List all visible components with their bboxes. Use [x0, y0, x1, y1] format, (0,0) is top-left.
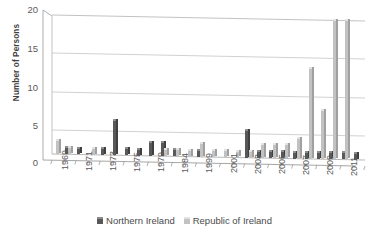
bar-group [64, 4, 76, 166]
bar-series-layer [52, 4, 365, 166]
bar-group [172, 4, 184, 166]
y-axis-ticks: 20 15 10 5 0 [12, 0, 38, 236]
bar-group [160, 4, 172, 166]
legend-item-republic-of-ireland[interactable]: Republic of Ireland [184, 215, 272, 226]
bar-group [281, 4, 293, 166]
bar-group [341, 4, 353, 166]
legend-swatch-icon-northern-ireland [97, 217, 103, 224]
bar-northern-ireland-1974 [113, 120, 116, 155]
plot-area [43, 4, 365, 166]
bar-group [257, 4, 269, 166]
x-tick-label-1971: 1971 [85, 151, 94, 171]
bar-republic-of-ireland-2011 [345, 20, 348, 159]
bar-group [148, 4, 160, 166]
bar-republic-of-ireland-2003 [249, 151, 252, 158]
bar-northern-ireland-1979 [149, 142, 152, 156]
bar-group [52, 4, 64, 166]
bar-group [317, 4, 329, 166]
bar-northern-ireland-1971 [77, 148, 80, 155]
bar-group [184, 4, 196, 166]
x-tick-label-1973: 1973 [109, 151, 118, 171]
x-tick-label-2011: 2011 [350, 156, 359, 175]
x-tick-label-1984: 1984 [181, 152, 190, 172]
x-tick-label-2009: 2009 [326, 155, 335, 175]
x-tick-label-2007: 2007 [302, 155, 311, 175]
bar-group [293, 4, 305, 166]
chart-container: Number of Persons 20 15 10 5 0 [0, 0, 369, 236]
bar-group [221, 4, 233, 166]
bar-group [269, 4, 281, 166]
legend-item-northern-ireland[interactable]: Northern Ireland [97, 215, 175, 226]
bar-group [112, 4, 124, 166]
bar-northern-ireland-1973 [101, 148, 104, 155]
bar-northern-ireland-1975 [125, 148, 128, 155]
x-tick-label-1975: 1975 [133, 152, 142, 172]
bar-republic-of-ireland-2008 [309, 68, 312, 158]
y-tick-label-5: 5 [16, 121, 38, 131]
bar-republic-of-ireland-2001 [224, 150, 227, 157]
legend-swatch-icon-republic-of-ireland [184, 217, 190, 224]
bar-group [209, 4, 221, 166]
bar-republic-of-ireland-1969 [56, 140, 59, 154]
bar-group [233, 4, 245, 166]
y-tick-label-20: 20 [16, 5, 38, 15]
y-tick-label-0: 0 [16, 158, 38, 168]
bar-republic-of-ireland-1999 [200, 143, 203, 157]
y-tick-label-15: 15 [16, 44, 38, 54]
bar-group [245, 4, 257, 166]
bar-republic-of-ireland-2005 [273, 144, 276, 158]
x-tick-label-2005: 2005 [278, 154, 287, 174]
bar-republic-of-ireland-1984 [176, 149, 179, 156]
bar-republic-of-ireland-2007 [297, 138, 300, 159]
bar-republic-of-ireland-2010 [333, 20, 336, 159]
bar-group [88, 4, 100, 166]
bar-republic-of-ireland-2009 [321, 110, 324, 159]
x-tick-label-2003: 2003 [254, 154, 263, 174]
legend-label-northern-ireland: Northern Ireland [106, 215, 175, 226]
bar-group [353, 4, 365, 166]
bar-group [329, 4, 341, 166]
bar-group [100, 4, 112, 166]
y-tick-label-10: 10 [16, 83, 38, 93]
bar-group [76, 4, 88, 166]
x-tick-label-1999: 1999 [205, 153, 214, 173]
x-tick-label-1979: 1979 [157, 152, 166, 172]
x-tick-label-2001: 2001 [230, 153, 239, 173]
bar-group [196, 4, 208, 166]
bar-group [305, 4, 317, 166]
bar-group [136, 4, 148, 166]
x-axis-labels: 1969197119731975197919841999200120032005… [43, 168, 365, 210]
bar-group [124, 4, 136, 166]
chart-legend: Northern Ireland Republic of Ireland [0, 215, 369, 226]
x-tick-label-1969: 1969 [61, 150, 70, 170]
legend-label-republic-of-ireland: Republic of Ireland [193, 215, 272, 226]
